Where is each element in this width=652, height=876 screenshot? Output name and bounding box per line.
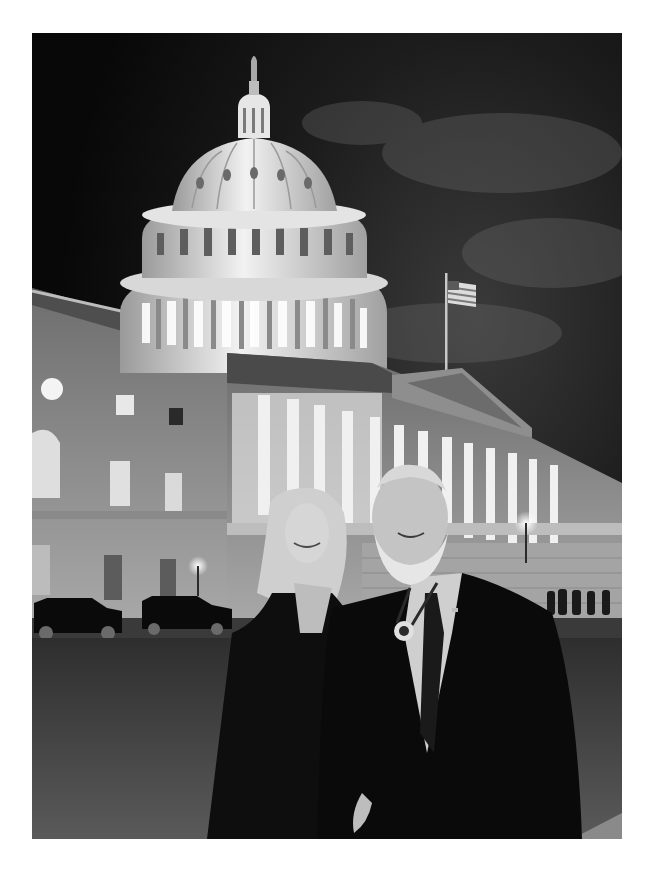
statue-of-freedom <box>251 56 257 81</box>
photograph: Couple posing in front of the U.S. Capit… <box>32 33 622 839</box>
capitol-night-scene <box>32 33 622 839</box>
